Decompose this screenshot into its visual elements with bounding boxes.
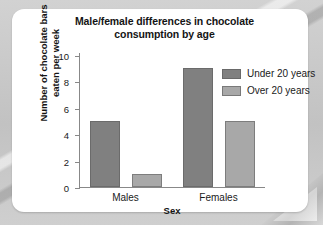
x-category-label-females: Females <box>199 192 237 203</box>
y-tick-4: 4 <box>75 135 80 136</box>
y-tick-label-10: 10 <box>58 51 69 62</box>
y-tick-8: 8 <box>75 82 80 83</box>
y-tick-6: 6 <box>75 109 80 110</box>
y-axis-title-line2: eaten per week <box>50 29 61 97</box>
y-tick-label-0: 0 <box>64 183 69 194</box>
bar-females-under <box>183 68 213 187</box>
bar-females-over <box>225 121 255 187</box>
y-tick-label-8: 8 <box>64 77 69 88</box>
figure-page: Male/female differences in chocolate con… <box>0 0 323 225</box>
y-axis-title: Number of chocolate bars eaten per week <box>38 0 62 129</box>
y-tick-0: 0 <box>75 188 80 189</box>
legend-swatch-0 <box>222 69 241 79</box>
chart-card: Male/female differences in chocolate con… <box>12 9 308 212</box>
x-category-label-males: Males <box>112 192 139 203</box>
chart-legend: Under 20 yearsOver 20 years <box>222 66 315 100</box>
y-axis-line <box>79 53 80 188</box>
y-tick-label-2: 2 <box>64 156 69 167</box>
legend-label-1: Over 20 years <box>247 85 310 96</box>
bar-males-under <box>90 121 120 187</box>
legend-swatch-1 <box>222 86 241 96</box>
y-axis-title-line1: Number of chocolate bars <box>38 4 49 121</box>
y-tick-2: 2 <box>75 162 80 163</box>
legend-item-1: Over 20 years <box>222 83 315 98</box>
legend-label-0: Under 20 years <box>247 68 315 79</box>
y-tick-label-6: 6 <box>64 103 69 114</box>
y-tick-label-4: 4 <box>64 130 69 141</box>
chart-title-line2: consumption by age <box>114 28 214 40</box>
bar-males-over <box>132 174 162 187</box>
legend-item-0: Under 20 years <box>222 66 315 81</box>
y-tick-10: 10 <box>75 56 80 57</box>
chart-title: Male/female differences in chocolate con… <box>52 15 277 41</box>
chart-title-line1: Male/female differences in chocolate <box>75 15 254 27</box>
x-axis-title: Sex <box>79 205 265 216</box>
x-axis-line <box>79 187 265 188</box>
